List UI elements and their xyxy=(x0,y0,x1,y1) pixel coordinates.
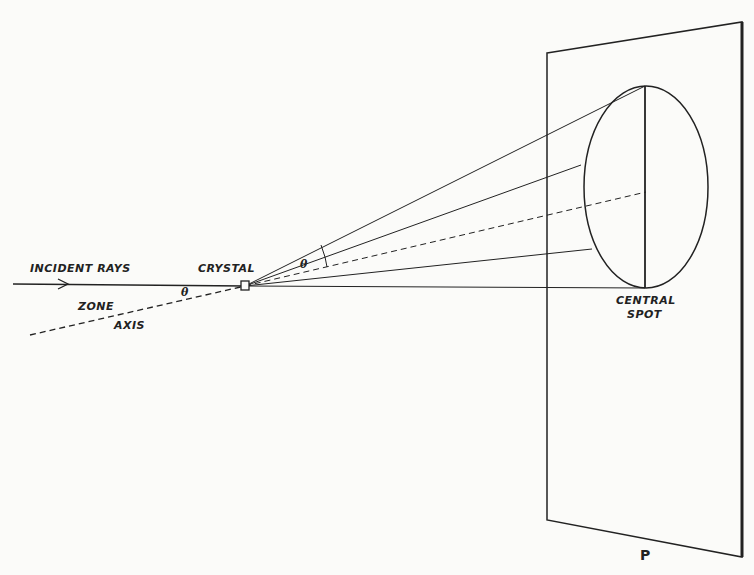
theta-arc-cone xyxy=(321,245,327,267)
label-theta-cone: θ xyxy=(300,258,308,271)
label-spot: SPOT xyxy=(627,308,663,321)
diagram-canvas: INCIDENT RAYS CRYSTAL ZONE AXIS θ θ CENT… xyxy=(0,0,754,575)
label-central: CENTRAL xyxy=(616,294,676,307)
label-incident-rays: INCIDENT RAYS xyxy=(30,262,131,275)
label-zone: ZONE xyxy=(77,300,114,313)
incident-ray xyxy=(13,279,245,289)
label-plate-p: P xyxy=(640,547,650,563)
zone-axis-diffraction-diagram: INCIDENT RAYS CRYSTAL ZONE AXIS θ θ CENT… xyxy=(0,0,754,575)
label-theta-left: θ xyxy=(181,286,189,299)
label-axis: AXIS xyxy=(113,319,145,332)
label-crystal: CRYSTAL xyxy=(198,262,255,275)
diffraction-ellipse xyxy=(584,86,708,288)
crystal-icon xyxy=(241,281,249,290)
